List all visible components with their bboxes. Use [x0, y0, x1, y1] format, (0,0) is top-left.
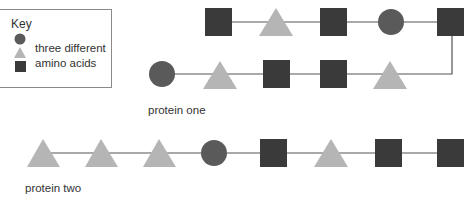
amino-acid-square [205, 8, 232, 36]
key-line-1: three different [35, 42, 106, 54]
amino-acid-circle [149, 61, 175, 87]
amino-acid-square [263, 60, 290, 88]
amino-acid-square [437, 139, 464, 167]
amino-acid-triangle [203, 61, 237, 89]
amino-acid-square [375, 139, 402, 167]
amino-acid-square [260, 139, 287, 167]
protein-two-label: protein two [25, 182, 81, 194]
amino-acid-circle [378, 9, 404, 35]
key-circle-icon [15, 34, 26, 45]
amino-acid-square [320, 8, 347, 36]
protein-one-label: protein one [148, 104, 206, 116]
amino-acid-triangle [373, 61, 407, 89]
key-symbols [0, 0, 40, 80]
key-square-icon [15, 61, 26, 72]
amino-acid-square [437, 8, 464, 36]
amino-acid-square [320, 60, 347, 88]
amino-acid-circle [201, 140, 227, 166]
key-triangle-icon [14, 47, 26, 58]
key-line-2: amino acids [35, 57, 96, 69]
